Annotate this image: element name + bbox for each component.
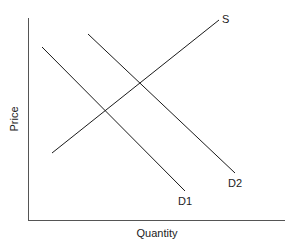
demand-curve-d2 — [88, 34, 235, 173]
supply-demand-chart: S D1 D2 Quantity Price — [0, 0, 297, 251]
y-axis-title: Price — [8, 106, 20, 131]
d2-label: D2 — [228, 177, 242, 189]
d1-label: D1 — [178, 195, 192, 207]
x-axis-title: Quantity — [137, 227, 178, 239]
demand-curve-d1 — [42, 47, 185, 191]
supply-curve — [52, 20, 219, 153]
supply-label: S — [222, 13, 229, 25]
